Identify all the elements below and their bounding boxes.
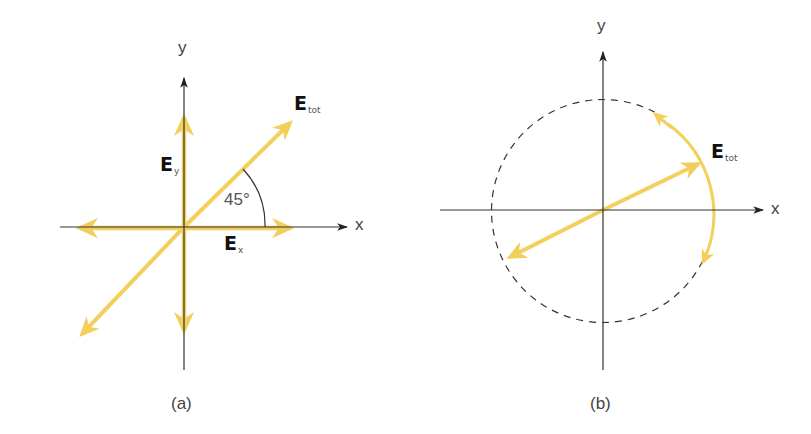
panel-a-caption: (a): [171, 394, 192, 414]
ex-symbol: E: [224, 232, 237, 254]
x-axis-label-b: x: [771, 199, 780, 219]
ey-symbol: E: [160, 153, 173, 175]
etot-vector-arrow-b-negative: [510, 210, 603, 257]
etot-subscript-b: tot: [725, 153, 738, 163]
etot-symbol: E: [294, 92, 307, 114]
polarization-diagram: [0, 0, 811, 434]
etot-subscript: tot: [308, 105, 321, 115]
etot-vector-arrow-b: [603, 164, 698, 210]
ey-subscript: y: [174, 166, 179, 176]
x-axis-label-a: x: [355, 215, 364, 235]
etot-label-b: Etot: [711, 140, 738, 163]
etot-symbol-b: E: [711, 140, 724, 162]
ey-label: Ey: [160, 153, 179, 176]
panel-a: [60, 78, 347, 370]
panel-b-caption: (b): [590, 394, 611, 414]
panel-b: [440, 52, 763, 370]
etot-vector-arrow-negative: [82, 227, 184, 334]
ex-subscript: x: [238, 245, 243, 255]
rotation-arc-arrow: [668, 124, 714, 262]
y-axis-label-b: y: [597, 16, 606, 36]
etot-vector-arrow: [184, 123, 290, 227]
etot-label-a: Etot: [294, 92, 321, 115]
angle-label: 45°: [224, 190, 250, 210]
y-axis-label-a: y: [178, 38, 187, 58]
ex-label: Ex: [224, 232, 243, 255]
